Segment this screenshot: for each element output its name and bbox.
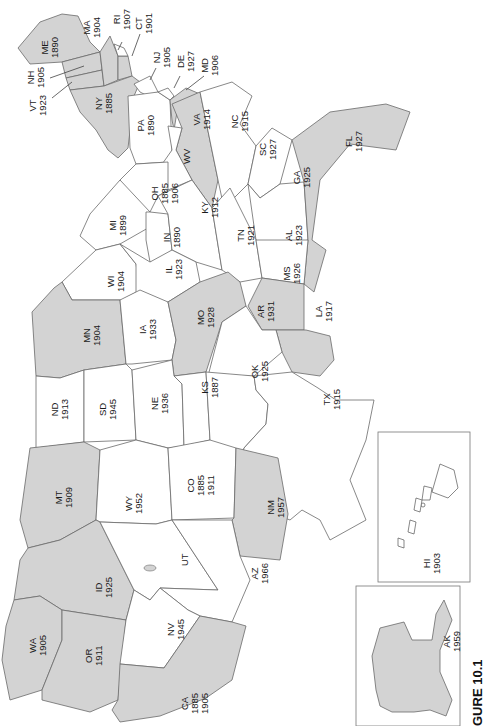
label-nh: NH1905: [26, 67, 46, 88]
label-wa: WA1905: [28, 635, 48, 656]
leader-ct: [132, 34, 140, 56]
label-or: OR1911: [84, 646, 104, 666]
label-ky: KY1912: [200, 197, 220, 218]
label-wy: WY1952: [124, 493, 144, 514]
label-mi: MI1899: [108, 215, 128, 236]
state-la[interactable]: [276, 330, 334, 376]
label-ct: CT1901: [134, 13, 154, 34]
label-pa: PA1890: [136, 115, 156, 136]
label-id: ID1925: [94, 577, 114, 598]
leader-nj: [150, 68, 156, 80]
leader-vt: [52, 82, 72, 98]
label-mo: MO1928: [196, 307, 216, 328]
label-me: ME1890: [40, 37, 60, 58]
label-oh: OH18851906: [150, 183, 180, 204]
label-mn: MN1904: [82, 325, 102, 346]
label-fl: FL1927: [344, 131, 364, 152]
label-nc: NC1915: [230, 111, 250, 132]
label-ny: NY1885: [94, 93, 114, 114]
label-ar: AR1931: [256, 301, 276, 322]
label-ak: AK1959: [442, 631, 462, 652]
label-sc: SC1927: [258, 139, 278, 160]
label-il: IL1923: [164, 259, 184, 280]
us-map: [0, 0, 487, 726]
label-ca: CA18851905: [180, 693, 210, 714]
label-de: DE1927: [176, 51, 196, 72]
label-al: AL1923: [284, 225, 304, 246]
label-ga: GA1925: [292, 167, 312, 188]
label-az: AZ1966: [250, 563, 270, 584]
label-hi: HI1903: [422, 553, 442, 574]
label-wi: WI1904: [106, 271, 126, 292]
label-ri: RI1907: [112, 9, 132, 30]
label-mt: MT1909: [54, 487, 74, 508]
label-nm: NM1957: [266, 497, 286, 518]
label-vt: VT1923: [28, 95, 48, 116]
label-la: LA1917: [314, 301, 334, 322]
great-salt-lake: [144, 565, 156, 571]
label-nv: NV1945: [166, 619, 186, 640]
leader-md: [186, 76, 204, 90]
label-ut: UT: [180, 553, 190, 566]
label-nj: NJ1905: [152, 47, 172, 68]
label-wv: WV: [182, 149, 192, 164]
label-in: IN1890: [162, 227, 182, 248]
label-nd: ND1913: [50, 399, 70, 420]
label-ks: KS1887: [200, 377, 220, 398]
figure-caption: GURE 10.1: [470, 660, 485, 726]
label-ms: MS1926: [282, 263, 302, 284]
label-co: CO18851911: [186, 475, 216, 496]
label-ok: OK1925: [250, 361, 270, 382]
label-ia: IA1933: [138, 319, 158, 340]
label-tx: TX1915: [322, 389, 342, 410]
label-ma: MA1904: [82, 17, 102, 38]
label-tn: TN1921: [236, 225, 256, 246]
label-sd: SD1945: [98, 399, 118, 420]
label-md: MD1906: [200, 55, 220, 76]
label-ne: NE1936: [150, 393, 170, 414]
label-va: VA1914: [192, 109, 212, 130]
leader-de: [174, 76, 180, 88]
